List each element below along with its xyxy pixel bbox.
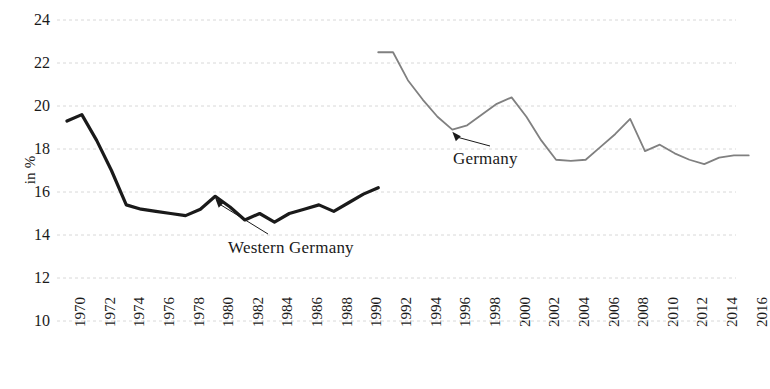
- series-lines: [67, 52, 749, 222]
- annotation-arrows: [215, 132, 490, 234]
- series-line-germany: [378, 52, 748, 164]
- annotation-arrowhead: [452, 132, 461, 142]
- gridlines: [57, 20, 736, 321]
- series-annotation-western-germany: Western Germany: [228, 239, 354, 257]
- series-annotation-germany: Germany: [453, 150, 518, 168]
- annotation-leader-line: [218, 203, 268, 234]
- annotation-leader-line: [455, 137, 490, 146]
